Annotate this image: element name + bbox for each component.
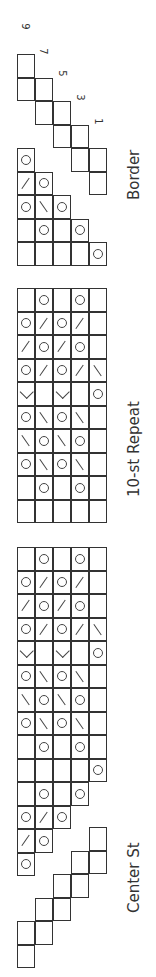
chart-cell [71,242,89,266]
chart-cell [89,242,107,266]
chart-cell [71,641,89,665]
yarn-over-icon [39,836,49,846]
chart-cell [35,829,53,853]
chart-cell [53,288,71,312]
chart-cell [17,806,35,830]
chart-cell [17,712,35,736]
chart-cell [35,429,53,453]
yarn-over-icon [39,601,49,611]
chart-cell [17,853,35,877]
yarn-over-icon [57,318,67,328]
chart-cell [35,406,53,430]
row-number-5: 5 [57,68,68,80]
border-label: Border [125,150,143,200]
chart-cell [35,500,53,524]
chart-cell [53,874,71,898]
yarn-over-icon [39,225,49,235]
k2tog-icon [76,624,85,635]
chart-cell [35,335,53,359]
chart-cell [35,898,53,922]
yarn-over-icon [75,742,85,752]
yarn-over-icon [39,789,49,799]
chart-cell [17,829,35,853]
yarn-over-icon [75,601,85,611]
chart-cell [71,219,89,243]
k2tog-icon [40,318,49,329]
chart-cell [53,735,71,759]
chart-cell [89,547,107,571]
yarn-over-icon [57,718,67,728]
chart-cell [71,851,89,875]
row-number-9: 9 [20,21,31,33]
chart-cell [89,476,107,500]
yarn-over-icon [21,202,31,212]
chart-cell [35,759,53,783]
chart-cell [89,712,107,736]
chart-cell [71,500,89,524]
chart-cell [71,759,89,783]
chart-cell [17,312,35,336]
chart-cell [53,429,71,453]
ssk-icon [76,412,85,423]
yarn-over-icon [57,412,67,422]
chart-cell [35,195,53,219]
chart-cell [89,359,107,383]
chart-cell [53,195,71,219]
chart-cell [17,500,35,524]
chart-cell [53,125,71,149]
chart-cell [53,665,71,689]
k2tog-icon [40,577,49,588]
ssk-icon [58,694,67,705]
k2tog-icon [40,365,49,376]
chart-cell [71,125,89,149]
ssk-icon [76,718,85,729]
chart-cell [17,148,35,172]
chart-cell [53,806,71,830]
chart-cell [53,359,71,383]
center-label: Center St [125,842,143,913]
chart-cell [17,641,35,665]
chart-cell [71,735,89,759]
yarn-over-icon [39,342,49,352]
k2tog-icon [40,624,49,635]
row-number-1: 1 [93,116,104,128]
chart-cell [53,547,71,571]
chart-cell [71,335,89,359]
yarn-over-icon [75,554,85,564]
chart-cell [17,382,35,406]
chart-cell [35,453,53,477]
chart-cell [89,429,107,453]
chart-cell [89,406,107,430]
chart-cell [89,759,107,783]
chart-cell [71,406,89,430]
yarn-over-icon [21,459,31,469]
chart-cell [35,782,53,806]
ssk-icon [40,201,49,212]
chart-cell [35,242,53,266]
chart-cell [17,453,35,477]
chart-cell [89,641,107,665]
chart-cell [35,219,53,243]
chart-cell [89,735,107,759]
chart-cell [53,312,71,336]
chart-cell [53,898,71,922]
chart-cell [53,712,71,736]
ssk-icon [94,624,103,635]
yarn-over-icon [39,436,49,446]
yarn-over-icon [57,624,67,634]
k2tog-icon [22,835,31,846]
chart-cell [35,665,53,689]
ssk-icon [22,435,31,446]
chart-cell [17,242,35,266]
yarn-over-icon [21,577,31,587]
yarn-over-icon [21,412,31,422]
chart-cell [35,476,53,500]
ssk-icon [94,365,103,376]
ssk-icon [76,671,85,682]
yarn-over-icon [21,812,31,822]
chart-cell [89,618,107,642]
yarn-over-icon [75,789,85,799]
chart-cell [35,359,53,383]
yarn-over-icon [21,318,31,328]
chart-cell [89,453,107,477]
